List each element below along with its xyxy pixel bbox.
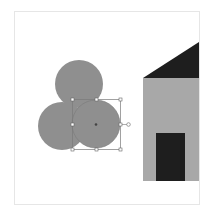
house-door[interactable] bbox=[156, 133, 185, 181]
handle-bottom-middle[interactable] bbox=[95, 148, 98, 151]
handle-top-right[interactable] bbox=[119, 98, 122, 101]
drawing-canvas[interactable] bbox=[0, 0, 210, 212]
rotate-handle-icon[interactable] bbox=[127, 123, 131, 127]
center-point-icon bbox=[95, 123, 98, 126]
handle-middle-right[interactable] bbox=[119, 123, 122, 126]
handle-top-middle[interactable] bbox=[95, 98, 98, 101]
handle-top-left[interactable] bbox=[71, 98, 74, 101]
handle-bottom-right[interactable] bbox=[119, 148, 122, 151]
handle-bottom-left[interactable] bbox=[71, 148, 74, 151]
handle-middle-left[interactable] bbox=[71, 123, 74, 126]
